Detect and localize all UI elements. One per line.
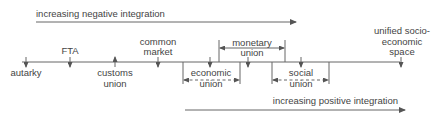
stage-unified-space: unified socio- economic space	[374, 25, 430, 67]
stage-label: union	[103, 78, 126, 89]
stage-label: social	[289, 67, 313, 78]
stage-autarky: autarky	[10, 57, 41, 78]
integration-diagram: increasing negative integration autarky …	[0, 0, 438, 116]
positive-integration-arrow: increasing positive integration	[185, 95, 405, 110]
negative-integration-arrow: increasing negative integration	[36, 8, 296, 22]
stage-label: customs	[97, 67, 133, 78]
negative-integration-label: increasing negative integration	[36, 8, 165, 19]
stage-label: union	[289, 78, 312, 89]
stage-label: union	[240, 47, 263, 58]
stage-label: autarky	[10, 67, 41, 78]
stage-label: unified socio-	[374, 25, 430, 36]
stage-label: union	[199, 78, 222, 89]
stage-label: space	[389, 46, 414, 57]
stage-label: FTA	[61, 45, 79, 56]
stage-fta: FTA	[61, 45, 79, 67]
stage-label: market	[143, 46, 172, 57]
positive-integration-label: increasing positive integration	[273, 95, 398, 106]
stage-label: economic	[191, 67, 232, 78]
